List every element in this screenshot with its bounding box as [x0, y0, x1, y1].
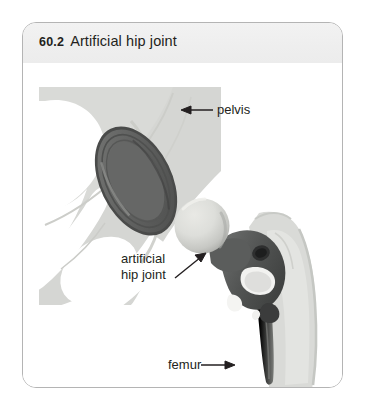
figure-number: 60.2 [39, 35, 64, 49]
femoral-head-ball [175, 199, 230, 254]
figure-title: Artificial hip joint [70, 33, 177, 49]
anatomy-diagram-svg [23, 63, 343, 388]
label-artificial-hip-joint-line1: artificial [121, 251, 193, 267]
label-artificial-hip-joint-line2: hip joint [121, 267, 193, 283]
label-femur: femur [168, 357, 201, 372]
arrow-right-icon [201, 361, 235, 369]
label-artificial-hip-joint: artificial hip joint [121, 251, 193, 283]
figure-title-band: 60.2Artificial hip joint [23, 23, 342, 63]
figure-caption: 60.2Artificial hip joint [39, 33, 177, 49]
figure-frame: 60.2Artificial hip joint [22, 22, 343, 388]
label-pelvis: pelvis [217, 102, 250, 117]
hip-joint-illustration [23, 63, 343, 388]
